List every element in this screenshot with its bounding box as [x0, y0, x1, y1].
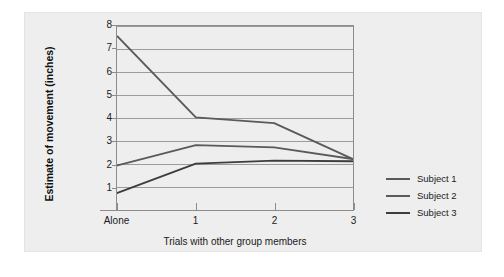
y-axis-tick-container: 12345678: [90, 0, 112, 277]
x-axis-title: Trials with other group members: [116, 236, 354, 247]
legend-label-1: Subject 1: [417, 173, 457, 184]
legend-line-swatch-1: [386, 178, 410, 180]
legend-item-3[interactable]: Subject 3: [386, 204, 482, 221]
y-axis-tick-label-5: 5: [94, 90, 112, 100]
x-axis-tick-mark-0: [117, 203, 118, 210]
x-axis-tick-mark-2: [275, 203, 276, 210]
y-axis-tick-label-6: 6: [94, 67, 112, 77]
legend-item-2[interactable]: Subject 2: [386, 187, 482, 204]
chart-legend: Subject 1Subject 2Subject 3: [386, 170, 482, 221]
series-line-1: [117, 36, 352, 159]
x-axis-line: [100, 210, 354, 211]
y-axis-tick-label-1: 1: [94, 183, 112, 193]
legend-label-2: Subject 2: [417, 190, 457, 201]
x-axis-tick-mark-1: [196, 203, 197, 210]
plot-area: [116, 25, 354, 211]
legend-line-swatch-3: [386, 212, 410, 214]
plot-svg: [117, 26, 353, 211]
y-axis-title: Estimate of movement (inches): [43, 29, 55, 219]
y-axis-tick-label-4: 4: [94, 113, 112, 123]
legend-label-3: Subject 3: [417, 207, 457, 218]
y-axis-tick-label-3: 3: [94, 136, 112, 146]
y-axis-tick-label-7: 7: [94, 43, 112, 53]
y-axis-tick-label-2: 2: [94, 160, 112, 170]
x-axis-tick-label-0: Alone: [87, 216, 147, 226]
legend-line-swatch-2: [386, 195, 410, 197]
x-axis-tick-mark-3: [354, 203, 355, 210]
x-axis-tick-label-3: 3: [324, 216, 384, 226]
figure-container: 12345678 Alone123 Estimate of movement (…: [0, 0, 504, 277]
x-axis-tick-label-2: 2: [245, 216, 305, 226]
gridlines: [117, 26, 353, 188]
x-axis-tick-label-1: 1: [166, 216, 226, 226]
legend-item-1[interactable]: Subject 1: [386, 170, 482, 187]
data-lines: [117, 36, 352, 193]
y-axis-tick-label-8: 8: [94, 20, 112, 30]
